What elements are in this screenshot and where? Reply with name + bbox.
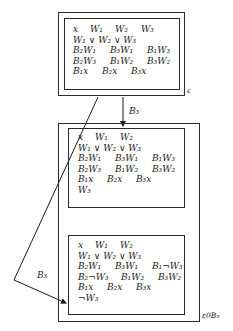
formula: B₂W₃ (78, 164, 115, 175)
formula: B₃W₂ (147, 56, 170, 67)
formula: B₃W₁ (115, 153, 152, 164)
formula-row: x W₁ W₂ W₃ (73, 24, 170, 35)
formula-row: B₁x B₂x B₃x (78, 282, 183, 293)
formula-row: x W₁ W₂ (78, 132, 175, 143)
formula-row: B₂W₁ B₃W₁ B₁W₃ (73, 45, 170, 56)
world-1-formulas: x W₁ W₂ W₁ ∨ W₂ ∨ W₃ B₂W₁ B₃W₁ B₁W₃ B₂W₃… (78, 132, 175, 196)
formula: B₂W₁ (78, 261, 115, 272)
formula-row: B₁x B₂x B₃x (73, 66, 170, 77)
formula: x (78, 240, 95, 251)
formula-row: W₁ ∨ W₂ ∨ W₃ (78, 251, 183, 262)
formula: x (78, 132, 95, 143)
formula: W₂ (120, 132, 133, 143)
formula: B₂W₁ (73, 45, 110, 56)
formula: W₂ (120, 240, 133, 251)
world-2-formulas: x W₁ W₂ W₁ ∨ W₂ ∨ W₃ B₂W₁ B₃W₁ B₁¬W₃ B₂¬… (78, 240, 183, 304)
formula: W₁ ∨ W₂ ∨ W₃ (78, 251, 141, 262)
formula: B₁x (78, 282, 107, 293)
formula: B₃x (136, 174, 151, 185)
formula-row: B₁x B₂x B₃x (78, 174, 175, 185)
formula: B₃x (136, 282, 151, 293)
formula: B₁¬W₃ (152, 261, 183, 272)
formula: B₁W₃ (152, 153, 175, 164)
formula: W₁ (95, 132, 120, 143)
formula-row: W₁ ∨ W₂ ∨ W₃ (78, 143, 175, 154)
formula: W₁ (95, 240, 120, 251)
formula: B₂x (107, 174, 136, 185)
formula-row: W₃ (78, 185, 175, 196)
formula: B₁W₂ (121, 272, 158, 283)
formula: W₂ (115, 24, 141, 35)
formula: B₃W₁ (110, 45, 147, 56)
arrow-diagonal-label: B₃ (37, 270, 47, 280)
formula-row: B₂W₁ B₃W₁ B₁W₃ (78, 153, 175, 164)
formula: ¬W₃ (78, 293, 98, 304)
top-state-formulas: x W₁ W₂ W₃ W₁ ∨ W₂ ∨ W₃ B₂W₁ B₃W₁ B₁W₃ B… (73, 24, 170, 77)
formula-row: B₂W₁ B₃W₁ B₁¬W₃ (78, 261, 183, 272)
formula: B₃W₁ (115, 261, 152, 272)
formula: B₃W₂ (158, 272, 181, 283)
formula: B₂W₃ (73, 56, 110, 67)
formula: B₂x (107, 282, 136, 293)
formula: B₁W₂ (110, 56, 147, 67)
formula: x (73, 24, 90, 35)
formula: B₃x (131, 66, 146, 77)
formula: B₁x (78, 174, 107, 185)
formula-row: x W₁ W₂ (78, 240, 183, 251)
formula-row: ¬W₃ (78, 293, 183, 304)
top-state-label: ε (187, 87, 191, 95)
formula: B₁W₂ (115, 164, 152, 175)
formula: W₃ (141, 24, 154, 35)
formula: W₁ (90, 24, 115, 35)
formula-row: B₂W₃ B₁W₂ B₃W₂ (73, 56, 170, 67)
arrow-down-label: B₃ (129, 106, 139, 116)
formula: W₁ ∨ W₂ ∨ W₃ (73, 35, 136, 46)
formula: B₂x (102, 66, 131, 77)
formula: B₃W₂ (152, 164, 175, 175)
formula-row: B₂¬W₃ B₁W₂ B₃W₂ (78, 272, 183, 283)
formula: W₃ (78, 185, 91, 196)
formula: B₁W₃ (147, 45, 170, 56)
formula: B₁x (73, 66, 102, 77)
formula: B₂¬W₃ (78, 272, 121, 283)
formula: B₂W₁ (78, 153, 115, 164)
bottom-state-label: ε0B₃ (202, 311, 219, 320)
formula-row: B₂W₃ B₁W₂ B₃W₂ (78, 164, 175, 175)
formula: W₁ ∨ W₂ ∨ W₃ (78, 143, 141, 154)
formula-row: W₁ ∨ W₂ ∨ W₃ (73, 35, 170, 46)
